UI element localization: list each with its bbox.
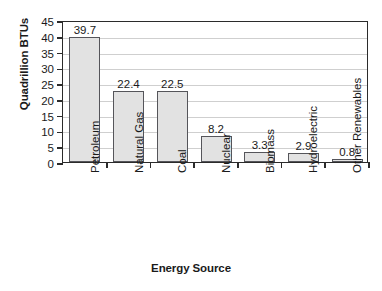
x-axis-category-label: Coal	[176, 149, 188, 173]
y-axis-tick	[57, 84, 63, 86]
x-axis-category-label: Nuclear	[220, 133, 232, 173]
x-axis-tick	[237, 162, 239, 168]
gridline	[63, 117, 367, 118]
y-axis-tick-label: 0	[48, 158, 54, 170]
y-axis-tick-label: 25	[41, 79, 54, 91]
gridline	[63, 54, 367, 55]
y-axis-tick	[57, 53, 63, 55]
y-axis-tick-label: 10	[41, 126, 54, 138]
y-axis-tick	[57, 37, 63, 39]
y-axis-tick	[57, 100, 63, 102]
bar-value-label: 22.4	[117, 78, 139, 90]
x-axis-labels: PetroleumNatural GasCoalNuclearBiomassHy…	[62, 173, 368, 273]
bar-value-label: 39.7	[74, 24, 96, 36]
x-axis-category-label: Other Renewables	[351, 78, 363, 173]
y-axis-tick-label: 15	[41, 111, 54, 123]
y-axis-title: Quadrillion BTUs	[18, 0, 30, 144]
bar-chart: Quadrillion BTUs 051015202530354045 39.7…	[0, 0, 382, 291]
x-axis-category-label: Biomass	[264, 129, 276, 173]
x-axis-tick	[106, 162, 108, 168]
gridline	[63, 101, 367, 102]
y-axis-tick	[57, 69, 63, 71]
gridline	[63, 85, 367, 86]
y-axis-tick-label: 40	[41, 32, 54, 44]
x-axis-category-label: Petroleum	[89, 121, 101, 173]
y-axis-tick	[57, 116, 63, 118]
x-axis-tick	[324, 162, 326, 168]
gridline	[63, 69, 367, 70]
bar-value-label: 22.5	[161, 78, 183, 90]
x-axis-category-label: Hydroelectric	[307, 106, 319, 173]
x-axis-category-label: Natural Gas	[133, 112, 145, 173]
y-axis-tick	[57, 132, 63, 134]
y-axis-tick	[57, 21, 63, 23]
y-axis-tick-label: 35	[41, 48, 54, 60]
y-axis-tick-label: 30	[41, 63, 54, 75]
y-axis-tick-label: 20	[41, 95, 54, 107]
gridline	[63, 38, 367, 39]
plot-area: 051015202530354045 39.722.422.58.23.32.9…	[62, 21, 368, 163]
y-axis-tick-label: 45	[41, 16, 54, 28]
x-axis-tick	[150, 162, 152, 168]
x-axis-tick	[368, 162, 370, 168]
x-axis-tick	[281, 162, 283, 168]
x-axis-title: Energy Source	[0, 262, 382, 274]
y-axis-tick	[57, 147, 63, 149]
y-axis-tick	[57, 163, 63, 165]
x-axis-tick	[193, 162, 195, 168]
y-axis-tick-label: 5	[48, 142, 54, 154]
